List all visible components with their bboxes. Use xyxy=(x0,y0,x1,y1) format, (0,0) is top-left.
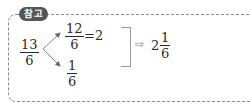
source-fraction: 13 6 xyxy=(20,38,39,67)
fraction-denominator: 6 xyxy=(70,37,78,51)
split-arrows-icon xyxy=(40,28,65,70)
fraction-numerator: 12 xyxy=(65,22,84,37)
implication-arrow-icon: ⇨ xyxy=(135,38,144,51)
branch-fraction-remainder: 1 6 xyxy=(67,59,77,88)
mixed-number-whole: 2 xyxy=(151,39,159,52)
note-badge: 참고 xyxy=(19,7,48,21)
fraction-numerator: 1 xyxy=(160,31,170,46)
mixed-number-fraction: 1 6 xyxy=(160,31,170,60)
fraction-numerator: 1 xyxy=(67,59,77,74)
fraction-numerator: 13 xyxy=(20,38,39,53)
bracket xyxy=(121,27,131,67)
fraction-denominator: 6 xyxy=(161,46,169,60)
branch-fraction-whole: 12 6 xyxy=(65,22,84,51)
fraction-denominator: 6 xyxy=(68,74,76,88)
branch-result: =2 xyxy=(84,29,103,42)
fraction-denominator: 6 xyxy=(25,53,33,67)
